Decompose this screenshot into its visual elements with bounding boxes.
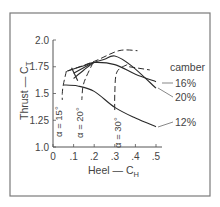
alpha-label: α = 20° (74, 107, 85, 138)
x-tick-label: .3 (111, 151, 120, 162)
legend-label: 16% (175, 77, 196, 89)
x-tick-label: 0 (50, 151, 56, 162)
legend-title: camber (170, 61, 206, 73)
tangent-2 (72, 68, 78, 81)
y-tick-label: 1.25 (30, 115, 50, 126)
legend: 12%16%20% (158, 77, 196, 128)
legend-leader-line (158, 122, 173, 127)
alpha-lines: α = 15°α = 20°α = 30° (53, 62, 127, 148)
chart: 0.1.2.3.4.51.01.251.51.752.0 α = 15°α = … (0, 0, 220, 207)
upper-envelope (67, 50, 137, 71)
axis-lines (53, 40, 162, 147)
y-tick-label: 2.0 (35, 35, 49, 46)
legend-label: 12% (175, 116, 196, 128)
legend-leader-line (158, 88, 173, 97)
axes (53, 40, 162, 147)
x-tick-label: .4 (131, 151, 140, 162)
ticks: 0.1.2.3.4.51.01.251.51.752.0 (30, 35, 161, 163)
x-tick-label: .2 (90, 151, 99, 162)
legend-label: 20% (175, 91, 196, 103)
right-envelope (129, 67, 150, 70)
y-tick-label: 1.5 (35, 88, 49, 99)
x-tick-label: .5 (152, 151, 161, 162)
alpha-label: α = 30° (112, 117, 123, 148)
y-tick-label: 1.0 (35, 142, 49, 153)
alpha-line (115, 65, 128, 113)
series-line-camber-20 (74, 56, 156, 88)
x-axis-label: Heel — CH (88, 164, 139, 179)
alpha-label: α = 15° (53, 106, 64, 137)
x-tick-label: .1 (69, 151, 78, 162)
